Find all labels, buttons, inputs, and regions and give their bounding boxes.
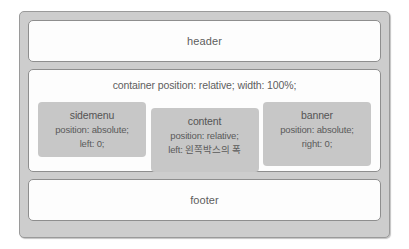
container-panel: container position: relative; width: 100… [28,69,381,172]
box-sidemenu-line-2: left: 0; [40,137,144,151]
box-sidemenu-title: sidemenu [40,108,144,123]
container-caption: container position: relative; width: 100… [29,79,380,91]
box-content: content position: relative; left: 왼쪽박스의 … [151,108,259,172]
box-sidemenu-line-1: position: absolute; [40,123,144,137]
header-panel: header [28,20,381,62]
container-boxes-row: sidemenu position: absolute; left: 0; co… [38,102,371,172]
header-label: header [187,35,222,47]
box-content-title: content [153,114,257,129]
box-sidemenu: sidemenu position: absolute; left: 0; [38,102,146,157]
box-banner: banner position: absolute; right: 0; [263,102,371,166]
box-banner-title: banner [265,108,369,123]
box-banner-line-2: right: 0; [265,137,369,151]
footer-label: footer [190,194,219,206]
layout-diagram-frame: header container position: relative; wid… [19,11,390,238]
box-banner-line-1: position: absolute; [265,123,369,137]
footer-panel: footer [28,179,381,221]
box-content-line-1: position: relative; [153,129,257,143]
box-content-line-2: left: 왼쪽박스의 폭 [153,143,257,157]
